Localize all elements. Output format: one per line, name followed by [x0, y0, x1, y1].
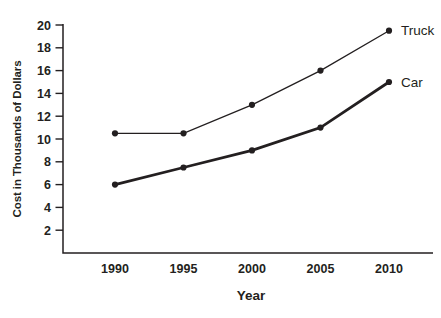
data-point-truck	[386, 28, 392, 34]
x-tick-label: 2000	[238, 262, 266, 276]
x-tick-label: 1995	[170, 262, 198, 276]
x-axis-title: Year	[237, 288, 266, 303]
data-point-car	[317, 125, 323, 131]
y-tick-label: 8	[44, 155, 51, 169]
x-tick-label: 2005	[307, 262, 335, 276]
y-tick-label: 10	[37, 133, 51, 147]
y-tick-label: 20	[37, 19, 51, 33]
y-tick-label: 16	[37, 64, 51, 78]
data-point-car	[180, 164, 186, 170]
y-tick-label: 2	[44, 224, 51, 238]
y-axis-title: Cost in Thousands of Dollars	[11, 61, 23, 218]
data-point-truck	[112, 130, 118, 136]
chart-canvas: 246810121416182019901995200020052010Truc…	[0, 0, 441, 318]
series-label-car: Car	[401, 75, 423, 90]
data-point-truck	[180, 130, 186, 136]
data-point-truck	[249, 102, 255, 108]
y-tick-label: 14	[37, 87, 51, 101]
data-point-car	[112, 182, 118, 188]
y-tick-label: 6	[44, 178, 51, 192]
cost-line-chart: 246810121416182019901995200020052010Truc…	[0, 0, 441, 318]
series-label-truck: Truck	[401, 23, 434, 38]
data-point-car	[249, 147, 255, 153]
data-point-truck	[317, 68, 323, 74]
x-tick-label: 2010	[375, 262, 403, 276]
y-tick-label: 12	[37, 110, 51, 124]
series-line-truck	[115, 31, 389, 134]
y-tick-label: 18	[37, 41, 51, 55]
y-tick-label: 4	[44, 201, 51, 215]
axis-lines	[63, 24, 433, 253]
data-point-car	[386, 79, 392, 85]
x-tick-label: 1990	[101, 262, 129, 276]
